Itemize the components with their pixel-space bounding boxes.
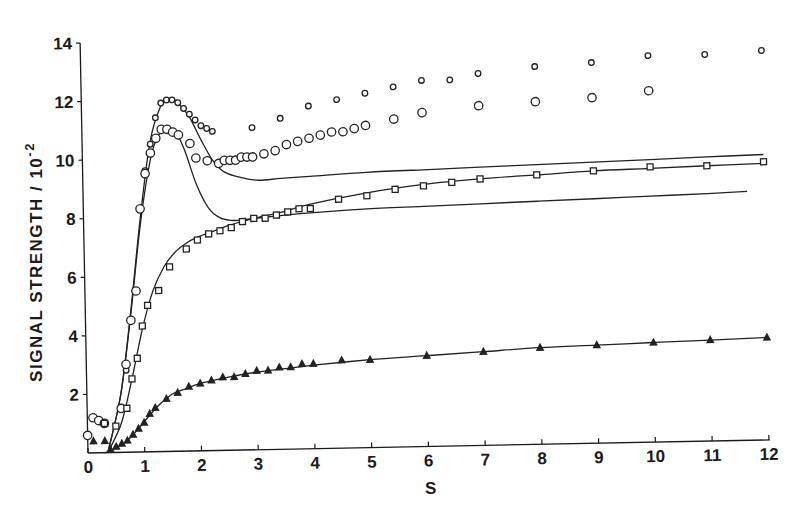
square-marker bbox=[296, 206, 302, 212]
circle-marker bbox=[271, 146, 280, 155]
diamond-marker bbox=[192, 117, 198, 123]
diamond-marker bbox=[475, 71, 481, 77]
circle-marker bbox=[327, 128, 336, 137]
x-tick-label: 7 bbox=[481, 450, 491, 469]
triangle-marker bbox=[764, 334, 771, 340]
circle-marker bbox=[531, 97, 540, 106]
y-tick-label: 6 bbox=[67, 268, 77, 287]
series-triangles bbox=[88, 334, 772, 453]
diamond-marker bbox=[645, 53, 651, 59]
square-marker bbox=[145, 302, 151, 308]
triangle-marker bbox=[197, 380, 204, 386]
x-tick-label: 5 bbox=[367, 452, 377, 471]
diamond-marker bbox=[419, 78, 425, 84]
x-tick-label: 0 bbox=[83, 458, 93, 477]
y-axis-title: SIGNAL STRENGTH / 10-2 bbox=[22, 142, 46, 382]
triangle-marker bbox=[265, 367, 272, 373]
circle-marker bbox=[260, 150, 269, 159]
triangle-marker bbox=[186, 383, 193, 389]
diamond-marker bbox=[147, 141, 153, 147]
square-marker bbox=[392, 186, 398, 192]
triangle-marker bbox=[480, 348, 487, 354]
diamond-marker bbox=[588, 60, 594, 66]
square-marker bbox=[590, 168, 596, 174]
triangle-marker bbox=[208, 377, 215, 383]
square-marker bbox=[217, 228, 223, 234]
circle-marker bbox=[136, 205, 145, 214]
circle-marker bbox=[151, 134, 160, 143]
y-axis-title-text: SIGNAL STRENGTH / 10 bbox=[27, 157, 46, 382]
x-tick-label: 1 bbox=[140, 457, 150, 476]
square-marker bbox=[335, 196, 341, 202]
diamond-marker bbox=[759, 48, 765, 54]
triangle-marker bbox=[152, 404, 159, 410]
circle-marker bbox=[305, 134, 314, 143]
square-marker bbox=[129, 376, 135, 382]
x-tick-label: 6 bbox=[424, 451, 434, 470]
circle-marker bbox=[293, 137, 302, 146]
x-tick-label: 2 bbox=[197, 456, 207, 475]
plot-area: 0123456789101112 2468101214 bbox=[53, 21, 779, 478]
series-squares bbox=[97, 159, 772, 430]
circle-marker bbox=[186, 139, 195, 148]
data-markers bbox=[76, 48, 772, 453]
square-marker bbox=[167, 264, 173, 270]
diamond-marker bbox=[210, 128, 216, 134]
square-marker bbox=[262, 215, 268, 221]
fit-triangles-line bbox=[103, 337, 769, 452]
diamond-marker bbox=[186, 111, 192, 117]
triangle-marker bbox=[594, 342, 601, 348]
diamond-marker bbox=[390, 84, 396, 90]
circle-marker bbox=[122, 360, 131, 369]
square-marker bbox=[194, 237, 200, 243]
triangle-marker bbox=[338, 357, 345, 363]
diamond-marker bbox=[204, 126, 210, 132]
circle-marker bbox=[339, 127, 348, 136]
square-marker bbox=[101, 420, 107, 426]
triangle-marker bbox=[242, 370, 249, 376]
circle-marker bbox=[146, 149, 155, 158]
triangle-marker bbox=[253, 367, 260, 373]
diamond-marker bbox=[198, 123, 204, 129]
chart-canvas: 0123456789101112 2468101214 S SIGNAL STR… bbox=[0, 0, 792, 511]
square-marker bbox=[251, 215, 257, 221]
x-tick-label: 10 bbox=[646, 447, 665, 466]
x-tick-label: 9 bbox=[594, 448, 604, 467]
square-marker bbox=[156, 287, 162, 293]
y-axis-title-exponent: -2 bbox=[22, 142, 37, 157]
diamond-marker bbox=[447, 77, 453, 83]
diamond-marker bbox=[532, 64, 538, 70]
circle-marker bbox=[389, 115, 398, 124]
y-tick-label: 10 bbox=[55, 151, 74, 170]
x-tick-label: 4 bbox=[310, 454, 320, 473]
square-marker bbox=[285, 209, 291, 215]
series-diamonds bbox=[117, 48, 770, 373]
square-marker bbox=[183, 246, 189, 252]
square-marker bbox=[760, 159, 766, 165]
diamond-marker bbox=[152, 115, 158, 121]
diamond-marker bbox=[702, 52, 708, 58]
diamond-marker bbox=[158, 100, 164, 106]
square-marker bbox=[704, 163, 710, 169]
circle-marker bbox=[316, 131, 325, 140]
square-marker bbox=[477, 176, 483, 182]
fit-squares-line bbox=[103, 163, 769, 452]
circle-marker bbox=[83, 431, 92, 440]
x-tick-label: 11 bbox=[703, 446, 721, 465]
y-tick-label: 8 bbox=[66, 210, 76, 229]
circle-marker bbox=[248, 153, 257, 162]
square-marker bbox=[239, 219, 245, 225]
triangle-marker bbox=[231, 373, 238, 379]
y-axis-line bbox=[80, 43, 88, 453]
triangle-marker bbox=[367, 356, 374, 362]
square-marker bbox=[307, 205, 313, 211]
y-axis-title-group: SIGNAL STRENGTH / 10-2 bbox=[22, 142, 46, 382]
square-marker bbox=[449, 179, 455, 185]
triangle-marker bbox=[537, 344, 544, 350]
diamond-marker bbox=[181, 106, 187, 112]
circle-marker bbox=[141, 169, 150, 178]
triangle-marker bbox=[707, 336, 714, 342]
triangle-marker bbox=[310, 360, 317, 366]
square-marker bbox=[647, 164, 653, 170]
square-marker bbox=[364, 193, 370, 199]
